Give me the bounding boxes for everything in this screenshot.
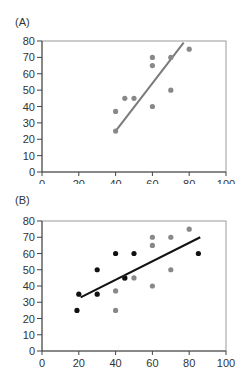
x-tick-label: 60 [146, 357, 158, 368]
data-point [168, 88, 173, 93]
scatter-plot-b: 01020304050607080020406080100 [0, 184, 250, 368]
y-tick-label: 50 [23, 84, 35, 96]
scatter-plot-a: 01020304050607080020406080100 [0, 0, 250, 184]
y-tick-label: 70 [23, 51, 35, 63]
y-tick-label: 10 [23, 150, 35, 162]
x-tick-label: 40 [109, 357, 121, 368]
data-point [113, 251, 118, 256]
y-tick-label: 20 [23, 133, 35, 145]
x-tick-label: 20 [73, 357, 85, 368]
data-point [113, 109, 118, 114]
data-point [74, 308, 79, 313]
data-point [131, 251, 136, 256]
y-tick-label: 80 [23, 215, 35, 227]
figure: (A) 01020304050607080020406080100 (B) 01… [0, 0, 250, 368]
data-point [150, 55, 155, 60]
y-tick-label: 30 [23, 117, 35, 129]
y-tick-label: 10 [23, 329, 35, 341]
data-point [168, 267, 173, 272]
data-point [150, 63, 155, 68]
data-point [150, 104, 155, 109]
x-tick-label: 80 [183, 357, 195, 368]
x-tick-label: 100 [217, 357, 235, 368]
data-point [95, 292, 100, 297]
data-point [95, 267, 100, 272]
data-point [168, 55, 173, 60]
y-tick-label: 0 [29, 345, 35, 357]
y-tick-label: 0 [29, 166, 35, 178]
y-tick-label: 20 [23, 313, 35, 325]
y-tick-label: 40 [23, 280, 35, 292]
data-point [76, 292, 81, 297]
chart-panel-b: (B) 01020304050607080020406080100 [0, 184, 250, 368]
data-point [150, 243, 155, 248]
y-tick-label: 60 [23, 68, 35, 80]
data-point [131, 275, 136, 280]
data-point [113, 308, 118, 313]
y-tick-label: 30 [23, 296, 35, 308]
data-point [113, 128, 118, 133]
regression-line [81, 237, 201, 297]
data-point [113, 288, 118, 293]
y-tick-label: 40 [23, 101, 35, 113]
x-tick-label: 0 [39, 357, 45, 368]
y-tick-label: 50 [23, 264, 35, 276]
y-tick-label: 80 [23, 35, 35, 47]
data-point [187, 47, 192, 52]
plot-frame [42, 221, 226, 351]
data-point [122, 96, 127, 101]
data-point [187, 227, 192, 232]
data-point [122, 275, 127, 280]
data-point [150, 283, 155, 288]
y-tick-label: 70 [23, 231, 35, 243]
data-point [150, 235, 155, 240]
y-tick-label: 60 [23, 248, 35, 260]
data-point [131, 96, 136, 101]
data-point [196, 251, 201, 256]
regression-line [116, 43, 184, 131]
chart-panel-a: (A) 01020304050607080020406080100 [0, 0, 250, 184]
data-point [168, 235, 173, 240]
